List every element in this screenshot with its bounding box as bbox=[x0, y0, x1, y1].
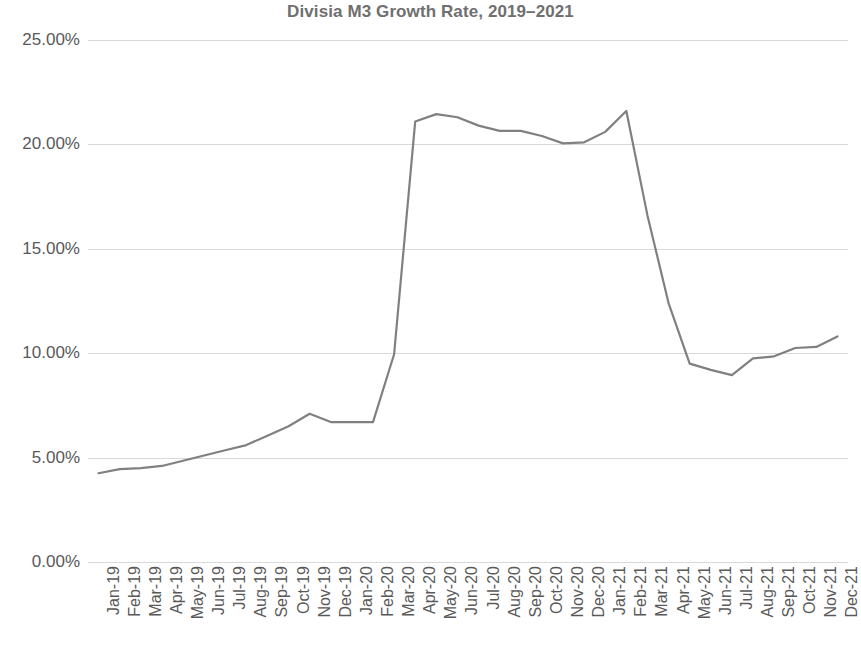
y-tick-label: 15.00% bbox=[22, 239, 80, 259]
plot-area bbox=[88, 40, 848, 562]
x-tick-label: Jul-19 bbox=[231, 566, 249, 610]
x-tick-label: Dec-19 bbox=[337, 566, 355, 618]
x-tick-label: Sep-19 bbox=[273, 566, 291, 618]
x-tick-label: Feb-19 bbox=[126, 566, 144, 617]
x-tick-label: Aug-19 bbox=[252, 566, 270, 618]
x-tick-label: Nov-19 bbox=[316, 566, 334, 618]
x-tick-label: Dec-20 bbox=[590, 566, 608, 618]
chart-title: Divisia M3 Growth Rate, 2019–2021 bbox=[0, 2, 861, 22]
y-tick-label: 20.00% bbox=[22, 134, 80, 154]
x-tick-label: Feb-21 bbox=[632, 566, 650, 617]
x-tick-label: Mar-19 bbox=[147, 566, 165, 617]
x-tick-label: Mar-20 bbox=[400, 566, 418, 617]
series-line-divisia-m3-growth-rate bbox=[88, 40, 848, 562]
x-tick-label: Apr-19 bbox=[168, 566, 186, 614]
x-tick-label: May-21 bbox=[696, 566, 714, 619]
y-tick-label: 5.00% bbox=[32, 448, 80, 468]
x-tick-label: Apr-20 bbox=[421, 566, 439, 614]
y-tick-label: 10.00% bbox=[22, 343, 80, 363]
x-tick-label: Jul-21 bbox=[738, 566, 756, 610]
y-tick-label: 0.00% bbox=[32, 552, 80, 572]
x-tick-label: Jun-20 bbox=[463, 566, 481, 615]
x-tick-label: Nov-20 bbox=[569, 566, 587, 618]
x-tick-label: Jan-19 bbox=[105, 566, 123, 615]
x-tick-label: Aug-20 bbox=[506, 566, 524, 618]
x-tick-label: Apr-21 bbox=[675, 566, 693, 614]
x-tick-label: Dec-21 bbox=[843, 566, 861, 618]
x-tick-label: Oct-20 bbox=[548, 566, 566, 614]
x-tick-label: Aug-21 bbox=[759, 566, 777, 618]
gridline bbox=[88, 562, 848, 563]
x-tick-label: May-20 bbox=[442, 566, 460, 619]
x-tick-label: Mar-21 bbox=[653, 566, 671, 617]
y-axis: 25.00%20.00%15.00%10.00%5.00%0.00% bbox=[0, 0, 88, 600]
x-tick-label: Feb-20 bbox=[379, 566, 397, 617]
x-axis: Jan-19Feb-19Mar-19Apr-19May-19Jun-19Jul-… bbox=[88, 566, 848, 672]
x-tick-label: Oct-21 bbox=[801, 566, 819, 614]
x-tick-label: Sep-21 bbox=[780, 566, 798, 618]
x-tick-label: Jan-20 bbox=[358, 566, 376, 615]
x-tick-label: Oct-19 bbox=[295, 566, 313, 614]
x-tick-label: Sep-20 bbox=[527, 566, 545, 618]
x-tick-label: May-19 bbox=[189, 566, 207, 619]
chart-container: Divisia M3 Growth Rate, 2019–2021 25.00%… bbox=[0, 0, 861, 672]
x-tick-label: Jun-21 bbox=[717, 566, 735, 615]
series-polyline bbox=[99, 111, 838, 473]
y-tick-label: 25.00% bbox=[22, 30, 80, 50]
x-tick-label: Jan-21 bbox=[611, 566, 629, 615]
x-tick-label: Nov-21 bbox=[822, 566, 840, 618]
x-tick-label: Jul-20 bbox=[485, 566, 503, 610]
x-tick-label: Jun-19 bbox=[210, 566, 228, 615]
